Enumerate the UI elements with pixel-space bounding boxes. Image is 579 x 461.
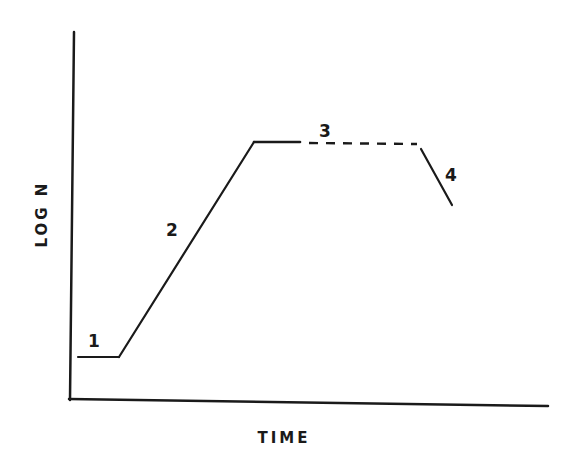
- phase-4-label: 4: [445, 165, 457, 185]
- phase-2-label: 2: [166, 220, 178, 240]
- phase-1-label: 1: [88, 331, 100, 351]
- phase-3-label: 3: [319, 121, 331, 141]
- growth-curve-chart: 1 2 3 4 LOG N TIME: [0, 0, 579, 461]
- phase-3-dashed-line: [309, 143, 417, 144]
- y-axis: [70, 32, 74, 400]
- x-axis-title: TIME: [258, 429, 311, 447]
- y-axis-title: LOG N: [33, 181, 51, 248]
- x-axis: [69, 399, 548, 406]
- phase-2-line: [119, 142, 254, 357]
